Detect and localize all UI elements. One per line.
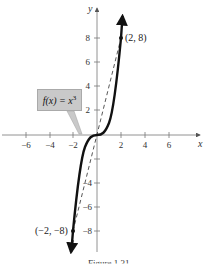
point-label-upper: (2, 8): [125, 32, 147, 44]
point-2-8: [119, 36, 123, 40]
svg-text:−8: −8: [82, 226, 92, 236]
svg-text:6: 6: [86, 57, 91, 67]
svg-text:2: 2: [119, 140, 124, 150]
x-axis-label: x: [197, 138, 203, 149]
y-axis-label: y: [87, 3, 93, 14]
svg-text:−6: −6: [82, 202, 92, 212]
svg-text:2: 2: [86, 105, 91, 115]
y-tick-labels: 8 6 4 2 −4 −6 −8: [82, 33, 92, 236]
x-tick-labels: −6 −4 −2 2 4 6: [21, 140, 172, 150]
svg-text:4: 4: [143, 140, 148, 150]
svg-text:8: 8: [86, 33, 91, 43]
svg-text:−2: −2: [68, 140, 78, 150]
cubic-function-graph: −6 −4 −2 2 4 6 8 6 4 2 −4 −6 −8 x y (2, …: [0, 0, 203, 267]
svg-text:−4: −4: [45, 140, 55, 150]
cubic-curve-lower-arrow: [71, 240, 73, 252]
function-label: f(x) = x3: [43, 94, 77, 106]
svg-text:6: 6: [167, 140, 172, 150]
svg-text:4: 4: [86, 81, 91, 91]
callout-pointer: [67, 111, 82, 134]
point-neg2-neg8: [71, 229, 75, 233]
svg-text:−6: −6: [21, 140, 31, 150]
function-label-box: f(x) = x3: [37, 89, 82, 111]
point-label-lower: (−2, −8): [35, 225, 68, 237]
